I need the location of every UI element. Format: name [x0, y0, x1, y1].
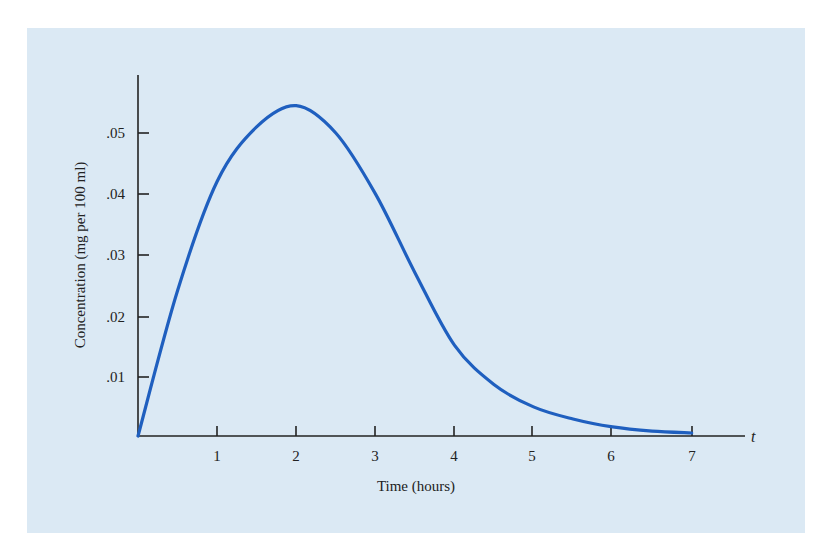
- svg-text:4: 4: [450, 448, 458, 464]
- x-axis-variable: t: [751, 428, 756, 445]
- svg-text:6: 6: [607, 448, 615, 464]
- y-ticks: [138, 133, 149, 377]
- x-tick-labels: 1 2 3 4 5 6 7: [213, 448, 696, 464]
- svg-text:2: 2: [292, 448, 300, 464]
- svg-text:1: 1: [213, 448, 221, 464]
- svg-text:7: 7: [688, 448, 696, 464]
- svg-text:3: 3: [371, 448, 379, 464]
- svg-text:.01: .01: [106, 369, 125, 385]
- svg-text:5: 5: [528, 448, 536, 464]
- concentration-curve: [138, 106, 692, 436]
- svg-text:.02: .02: [106, 309, 125, 325]
- svg-text:.04: .04: [106, 186, 125, 202]
- y-axis-title: Concentration (mg per 100 ml): [72, 162, 89, 349]
- x-axis-title: Time (hours): [377, 478, 455, 495]
- svg-text:.05: .05: [106, 125, 125, 141]
- svg-text:.03: .03: [106, 247, 125, 263]
- chart: t .01 .02 .03 .04 .05 1 2 3 4 5 6 7 Time…: [0, 0, 830, 560]
- y-tick-labels: .01 .02 .03 .04 .05: [106, 125, 125, 385]
